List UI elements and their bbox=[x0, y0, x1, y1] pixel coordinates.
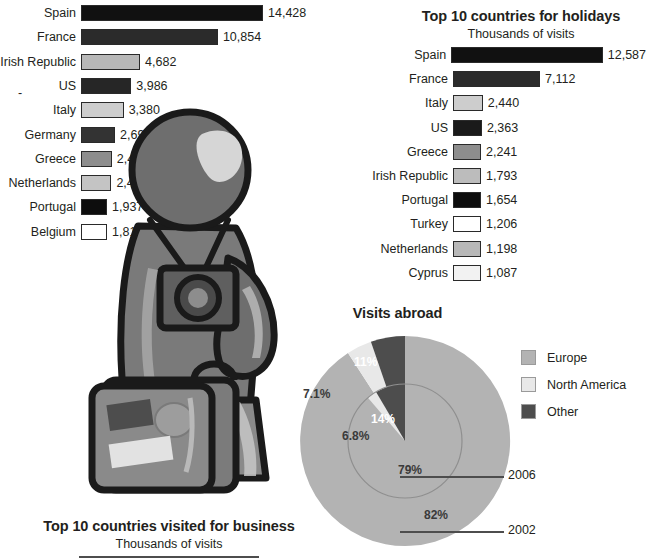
bar-value-label: 4,682 bbox=[140, 53, 176, 71]
bar-category-label: Turkey bbox=[330, 215, 453, 233]
legend-item[interactable]: Europe bbox=[521, 344, 641, 371]
bar-value-label: 12,587 bbox=[603, 46, 646, 64]
bar-category-label: Greece bbox=[0, 150, 81, 168]
bar-category-label: US bbox=[330, 119, 453, 137]
bar-row: Irish Republic4,682 bbox=[0, 53, 330, 71]
bar-value-label: 14,428 bbox=[263, 4, 306, 22]
bar-value-label: 1,206 bbox=[481, 215, 517, 233]
bar-row: Spain12,587 bbox=[330, 46, 646, 64]
bar-rect bbox=[81, 29, 218, 45]
holiday-bar-chart: Spain12,587France7,112Italy2,440US2,363G… bbox=[330, 46, 646, 290]
bar-rect bbox=[453, 71, 540, 87]
business-chart-title: Top 10 countries visited for business bbox=[9, 518, 329, 534]
bar-rect bbox=[453, 216, 481, 232]
pie-label-inner-europe: 79% bbox=[398, 463, 422, 477]
bar-value-label: 1,654 bbox=[481, 191, 517, 209]
legend-item[interactable]: Other bbox=[521, 398, 641, 425]
pie-label-inner-other: 14% bbox=[371, 412, 395, 426]
legend-label: Other bbox=[536, 405, 578, 419]
camera-icon bbox=[160, 268, 236, 328]
bar-value-label: 7,112 bbox=[540, 70, 575, 88]
bar-value-label: 1,793 bbox=[481, 167, 517, 185]
bar-category-label: US bbox=[0, 77, 81, 95]
bar-category-label: Cyprus bbox=[330, 264, 453, 282]
bar-value-label: 3,986 bbox=[131, 77, 167, 95]
bar-row: France10,854 bbox=[0, 28, 330, 46]
bar-value-label: 1,087 bbox=[481, 264, 517, 282]
bar-rect bbox=[453, 144, 481, 160]
bar-value-label: 2,363 bbox=[482, 119, 518, 137]
pie-legend: EuropeNorth AmericaOther bbox=[521, 344, 641, 425]
bar-category-label: France bbox=[0, 28, 81, 46]
year-label-2006: 2006 bbox=[508, 468, 536, 482]
bar-row: France7,112 bbox=[330, 70, 646, 88]
bar-category-label: Spain bbox=[0, 4, 81, 22]
bar-category-label: Belgium bbox=[0, 223, 81, 241]
bar-category-label: Portugal bbox=[330, 191, 453, 209]
leader-line-2006 bbox=[400, 476, 504, 478]
bar-category-label: Italy bbox=[0, 101, 81, 119]
pie-chart-title: Visits abroad bbox=[330, 305, 465, 321]
legend-swatch bbox=[521, 350, 536, 365]
bar-value-label: 1,198 bbox=[481, 240, 517, 258]
bar-row: US2,363 bbox=[330, 119, 646, 137]
bar-row: US3,986 bbox=[0, 77, 330, 95]
legend-swatch bbox=[521, 404, 536, 419]
bar-rect bbox=[81, 5, 263, 21]
year-label-2002: 2002 bbox=[508, 523, 536, 537]
bar-category-label: Netherlands bbox=[0, 174, 81, 192]
bar-rect bbox=[453, 241, 481, 257]
bar-row: Portugal1,654 bbox=[330, 191, 646, 209]
bar-rect bbox=[81, 78, 131, 94]
bar-row: Greece2,241 bbox=[330, 143, 646, 161]
bar-rect bbox=[453, 192, 481, 208]
bar-category-label: Portugal bbox=[0, 198, 81, 216]
bar-row: Spain14,428 bbox=[0, 4, 330, 22]
bar-category-label: Greece bbox=[330, 143, 453, 161]
tourist-mascot-illustration bbox=[78, 108, 310, 500]
bar-category-label: Irish Republic bbox=[330, 167, 453, 185]
bar-row: Turkey1,206 bbox=[330, 215, 646, 233]
bar-value-label: 10,854 bbox=[218, 28, 261, 46]
business-chart-subtitle: Thousands of visits bbox=[9, 537, 329, 551]
legend-swatch bbox=[521, 377, 536, 392]
bar-rect bbox=[453, 265, 481, 281]
pie-label-outer-other: 11% bbox=[354, 355, 377, 369]
pie-label-inner-north-america: 6.8% bbox=[342, 429, 369, 443]
bar-category-label: Germany bbox=[0, 126, 81, 144]
bar-category-label: Italy bbox=[330, 94, 453, 112]
bar-value-label: 2,241 bbox=[481, 143, 517, 161]
business-chart-rule bbox=[79, 556, 259, 558]
pie-label-outer-north-america: 7.1% bbox=[303, 387, 330, 401]
bar-category-label: Netherlands bbox=[330, 240, 453, 258]
legend-label: Europe bbox=[536, 351, 587, 365]
bar-row: Irish Republic1,793 bbox=[330, 167, 646, 185]
bar-value-label: 2,440 bbox=[483, 94, 519, 112]
bar-rect bbox=[81, 54, 140, 70]
leader-line-2002 bbox=[400, 531, 504, 533]
bar-category-label: France bbox=[330, 70, 453, 88]
bar-rect bbox=[453, 120, 482, 136]
bar-rect bbox=[453, 168, 481, 184]
legend-label: North America bbox=[536, 378, 626, 392]
holiday-chart-subtitle: Thousands of visits bbox=[396, 27, 646, 41]
us-row-dash-marker: - bbox=[18, 84, 22, 102]
bar-category-label: Spain bbox=[330, 46, 451, 64]
suitcase-icon bbox=[92, 364, 236, 490]
bar-row: Netherlands1,198 bbox=[330, 240, 646, 258]
bar-row: Italy2,440 bbox=[330, 94, 646, 112]
pie-label-outer-europe: 82% bbox=[424, 508, 448, 522]
bar-row: Cyprus1,087 bbox=[330, 264, 646, 282]
bar-rect bbox=[453, 95, 483, 111]
legend-item[interactable]: North America bbox=[521, 371, 641, 398]
holiday-chart-title: Top 10 countries for holidays bbox=[396, 8, 646, 24]
bar-rect bbox=[451, 47, 603, 63]
bar-category-label: Irish Republic bbox=[0, 53, 81, 71]
